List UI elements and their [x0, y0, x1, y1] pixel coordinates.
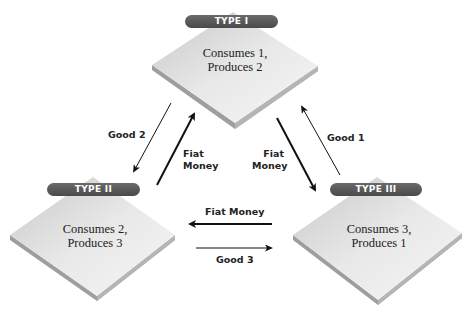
type1-label: TYPE I	[185, 15, 278, 28]
good3-label: Good 3	[216, 254, 254, 266]
fiat-1-to-3-line1: Fiat	[252, 148, 284, 160]
type2-consumes: Consumes 2,	[45, 222, 145, 236]
fiat-2-to-1-line2: Money	[183, 160, 218, 172]
type3-produces: Produces 1	[329, 236, 429, 250]
fiat-3-to-2-label: Fiat Money	[205, 206, 264, 218]
type3-label: TYPE III	[330, 183, 422, 196]
type1-consumes: Consumes 1,	[185, 46, 285, 60]
good2-label: Good 2	[108, 129, 146, 141]
type1-produces: Produces 2	[185, 60, 285, 74]
type2-description: Consumes 2, Produces 3	[45, 222, 145, 250]
good1-label: Good 1	[327, 132, 365, 144]
fiat-2-to-1-label: Fiat Money	[183, 148, 218, 172]
type2-label: TYPE II	[47, 183, 140, 196]
type3-description: Consumes 3, Produces 1	[329, 222, 429, 250]
type1-description: Consumes 1, Produces 2	[185, 46, 285, 74]
fiat-1-to-3-line2: Money	[252, 160, 284, 172]
fiat-2-to-1-line1: Fiat	[183, 148, 218, 160]
fiat-1-to-3-label: Fiat Money	[252, 148, 284, 172]
type3-consumes: Consumes 3,	[329, 222, 429, 236]
type2-produces: Produces 3	[45, 236, 145, 250]
